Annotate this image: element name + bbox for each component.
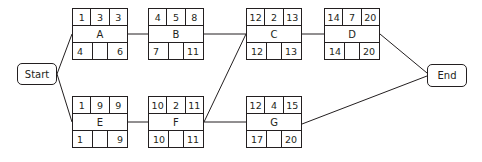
late-start: 1 bbox=[73, 131, 92, 148]
duration: 7 bbox=[342, 9, 360, 25]
early-start: 10 bbox=[149, 97, 166, 113]
late-start: 7 bbox=[149, 43, 168, 60]
early-start: 12 bbox=[247, 97, 264, 113]
late-finish: 20 bbox=[281, 131, 301, 148]
slack bbox=[344, 43, 360, 60]
activity-label: B bbox=[149, 26, 203, 43]
activity-node-d: 14720 D 1420 bbox=[324, 8, 380, 60]
edge-f-c bbox=[204, 34, 246, 122]
duration: 5 bbox=[166, 9, 184, 25]
duration: 3 bbox=[90, 9, 108, 25]
edge-start-e bbox=[57, 74, 72, 122]
late-finish: 11 bbox=[183, 43, 203, 60]
early-finish: 11 bbox=[185, 97, 203, 113]
edge-start-a bbox=[57, 34, 72, 74]
activity-label: F bbox=[149, 114, 203, 131]
early-finish: 8 bbox=[185, 9, 203, 25]
start-label: Start bbox=[25, 69, 49, 80]
start-node: Start bbox=[17, 63, 57, 85]
activity-node-g: 12415 G 1720 bbox=[246, 96, 302, 148]
early-finish: 9 bbox=[109, 97, 127, 113]
slack bbox=[266, 43, 282, 60]
slack bbox=[92, 131, 108, 148]
edge-d-end bbox=[380, 34, 427, 73]
activity-node-c: 12213 C 1213 bbox=[246, 8, 302, 60]
activity-node-a: 133 A 46 bbox=[72, 8, 128, 60]
activity-label: D bbox=[325, 26, 379, 43]
late-start: 14 bbox=[325, 43, 344, 60]
late-finish: 9 bbox=[107, 131, 127, 148]
late-finish: 11 bbox=[183, 131, 203, 148]
slack bbox=[92, 43, 108, 60]
early-start: 1 bbox=[73, 97, 90, 113]
early-finish: 3 bbox=[109, 9, 127, 25]
late-start: 4 bbox=[73, 43, 92, 60]
early-finish: 15 bbox=[283, 97, 301, 113]
early-finish: 13 bbox=[283, 9, 301, 25]
slack bbox=[266, 131, 282, 148]
early-start: 4 bbox=[149, 9, 166, 25]
activity-node-e: 199 E 19 bbox=[72, 96, 128, 148]
activity-label: G bbox=[247, 114, 301, 131]
early-finish: 20 bbox=[361, 9, 379, 25]
slack bbox=[168, 131, 184, 148]
activity-node-b: 458 B 711 bbox=[148, 8, 204, 60]
early-start: 12 bbox=[247, 9, 264, 25]
activity-label: C bbox=[247, 26, 301, 43]
activity-label: E bbox=[73, 114, 127, 131]
edge-g-end bbox=[302, 76, 427, 124]
early-start: 14 bbox=[325, 9, 342, 25]
activity-node-f: 10211 F 1011 bbox=[148, 96, 204, 148]
late-finish: 6 bbox=[107, 43, 127, 60]
duration: 4 bbox=[264, 97, 282, 113]
end-node: End bbox=[427, 64, 467, 87]
late-start: 17 bbox=[247, 131, 266, 148]
late-start: 12 bbox=[247, 43, 266, 60]
duration: 2 bbox=[264, 9, 282, 25]
duration: 2 bbox=[166, 97, 184, 113]
duration: 9 bbox=[90, 97, 108, 113]
early-start: 1 bbox=[73, 9, 90, 25]
late-finish: 13 bbox=[281, 43, 301, 60]
slack bbox=[168, 43, 184, 60]
end-label: End bbox=[437, 70, 456, 81]
activity-label: A bbox=[73, 26, 127, 43]
late-finish: 20 bbox=[359, 43, 379, 60]
late-start: 10 bbox=[149, 131, 168, 148]
